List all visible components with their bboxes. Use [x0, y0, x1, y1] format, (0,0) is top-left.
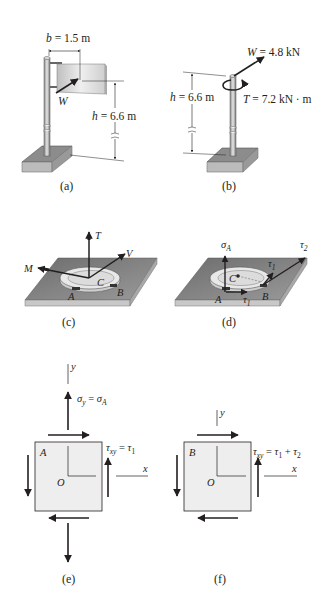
tau-eq-label: τxy = τ1	[106, 442, 135, 456]
v-label: V	[126, 248, 134, 259]
caption-e: (e)	[62, 572, 75, 586]
y-axis-label: y	[219, 407, 225, 418]
w-label: W	[58, 95, 69, 107]
x-axis-label: x	[142, 463, 148, 474]
pole	[44, 58, 50, 156]
panel-f: y B O τxy = τ1 + τ2 x (f)	[177, 407, 301, 586]
figure-canvas: W bb = 1.5 m = 1.5 m h = 6.6 m (a) W = 4…	[0, 0, 323, 612]
h-dimension-label: h = 6.6 m	[170, 91, 214, 103]
x-axis-label: x	[291, 463, 297, 474]
panel-d: σA τ2 τ1 τ1 C A B (d)	[175, 239, 308, 329]
h-dimension-label: h = 6.6 m	[92, 110, 136, 122]
b-label: B	[262, 291, 269, 302]
point-b-label: B	[189, 447, 196, 458]
tau2-label: τ2	[300, 239, 308, 253]
c-label: C	[229, 273, 237, 284]
caption-a: (a)	[60, 179, 73, 193]
sigma-a-label: σA	[221, 239, 231, 253]
origin-label: O	[57, 477, 65, 488]
t-label: T	[95, 230, 102, 241]
tau-eq-label: τxy = τ1 + τ2	[253, 446, 301, 460]
origin-label: O	[207, 477, 215, 488]
panel-b: W = 4.8 kN T = 7.2 kN · m h = 6.6 m (b)	[170, 46, 312, 193]
c-label: C	[97, 277, 105, 288]
caption-f: (f)	[214, 572, 226, 586]
point-a-label: A	[39, 447, 47, 458]
sigma-eq-label: σy = σA	[77, 393, 107, 407]
w-force-arrow	[234, 57, 264, 76]
torque-label: T = 7.2 kN · m	[243, 93, 312, 105]
sign-board	[57, 64, 105, 94]
pole	[230, 76, 236, 156]
b-label: B	[117, 287, 124, 298]
m-label: M	[23, 263, 34, 274]
caption-b: (b)	[222, 179, 236, 193]
panel-c: T V M C A B (c)	[23, 230, 157, 329]
panel-a: W bb = 1.5 m = 1.5 m h = 6.6 m (a)	[22, 32, 136, 193]
caption-c: (c)	[62, 315, 75, 329]
y-axis-label: y	[70, 361, 76, 372]
panel-e: y σy = σA A O τxy = τ1 x (e)	[28, 361, 148, 586]
a-label: A	[67, 291, 75, 302]
a-label: A	[214, 294, 222, 305]
b-dimension-label: bb = 1.5 m = 1.5 m	[46, 32, 90, 44]
w-force-label: W = 4.8 kN	[247, 46, 301, 58]
caption-d: (d)	[222, 315, 236, 329]
